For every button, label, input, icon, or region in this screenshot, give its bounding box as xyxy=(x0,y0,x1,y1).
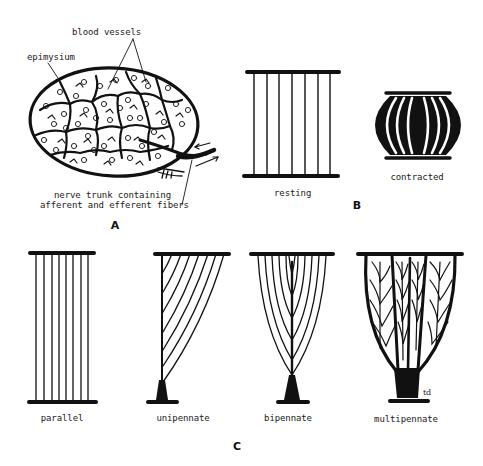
muscle-cross-section xyxy=(27,39,218,205)
unipennate-muscle-diagram xyxy=(148,254,229,402)
multipennate-muscle-diagram xyxy=(358,254,462,401)
panel-letter-c: C xyxy=(233,440,241,453)
nerve-trunk-label-line2: afferent and efferent fibers xyxy=(40,200,189,210)
multipennate-label: multipennate xyxy=(374,414,438,424)
panel-letter-b: B xyxy=(353,199,361,212)
epimysium-label: epimysium xyxy=(27,52,75,62)
figure-artwork xyxy=(0,0,483,466)
parallel-label: parallel xyxy=(41,413,84,423)
panel-letter-a: A xyxy=(111,219,120,232)
resting-label: resting xyxy=(274,188,311,198)
bipennate-muscle-diagram xyxy=(251,254,333,402)
muscle-structure-figure: blood vessels epimysium nerve trunk cont… xyxy=(0,0,483,466)
unipennate-label: unipennate xyxy=(156,413,209,423)
contracted-label: contracted xyxy=(390,172,443,182)
tendon-td-label: td xyxy=(423,388,431,398)
resting-muscle-diagram xyxy=(244,72,339,176)
blood-vessels-label: blood vessels xyxy=(72,27,141,37)
nerve-trunk-label-line1: nerve trunk containing xyxy=(54,190,171,200)
bipennate-label: bipennate xyxy=(264,413,312,423)
contracted-muscle-diagram xyxy=(375,93,461,158)
parallel-muscle-diagram xyxy=(29,253,96,402)
